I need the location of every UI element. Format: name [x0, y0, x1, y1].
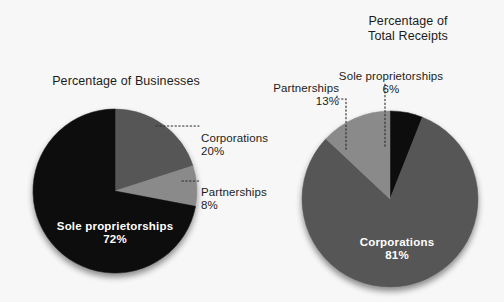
slice-label-right-corporations: Corporations 81% — [322, 222, 472, 263]
callout-left-partnerships: Partnerships 8% — [201, 172, 297, 226]
slice-label-left-sole-proprietorships: Sole proprietorships 72% — [30, 206, 200, 247]
slice-label-left-sole-text: Sole proprietorships — [57, 220, 173, 232]
callout-right-sole-proprietorships: Sole proprietorships 6% — [337, 56, 445, 110]
callout-left-corporations-value: 20% — [201, 145, 297, 159]
slice-label-right-corporations-value: 81% — [385, 249, 409, 261]
chart-title-left: Percentage of Businesses — [36, 74, 216, 89]
pie-chart-figure: Percentage of Businesses Percentage of T… — [0, 0, 504, 302]
callout-left-corporations: Corporations 20% — [201, 118, 297, 172]
callout-right-partnerships-value: 13% — [261, 95, 339, 109]
callout-right-sole-text: Sole proprietorships — [339, 70, 443, 82]
chart-title-right: Percentage of Total Receipts — [340, 14, 476, 43]
slice-label-right-corporations-text: Corporations — [360, 236, 435, 248]
callout-right-partnerships: Partnerships 13% — [261, 68, 339, 122]
callout-right-partnerships-text: Partnerships — [273, 82, 339, 94]
pie-left — [33, 109, 197, 273]
callout-left-corporations-text: Corporations — [201, 132, 268, 144]
callout-left-partnerships-text: Partnerships — [201, 186, 267, 198]
callout-right-sole-value: 6% — [337, 83, 445, 97]
callout-left-partnerships-value: 8% — [201, 199, 297, 213]
slice-label-left-sole-value: 72% — [103, 233, 127, 245]
